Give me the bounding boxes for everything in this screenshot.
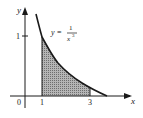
y-axis-arrow-icon [22, 7, 28, 15]
function-denominator: x [66, 35, 71, 43]
x-tick-label-3: 3 [88, 98, 92, 107]
shaded-area [42, 37, 90, 96]
function-label: y = 1 x 3 [50, 24, 77, 43]
x-tick-label-1: 1 [40, 98, 44, 107]
function-exponent: 3 [72, 33, 75, 38]
y-axis-label: y [16, 5, 21, 15]
y-tick-label-1: 1 [16, 32, 20, 41]
function-lhs: y = [50, 28, 62, 37]
origin-label: 0 [17, 98, 21, 107]
x-axis-label: x [130, 96, 135, 106]
function-numerator: 1 [69, 24, 73, 32]
area-diagram: y x 0 1 3 1 y = 1 x 3 [0, 0, 143, 118]
